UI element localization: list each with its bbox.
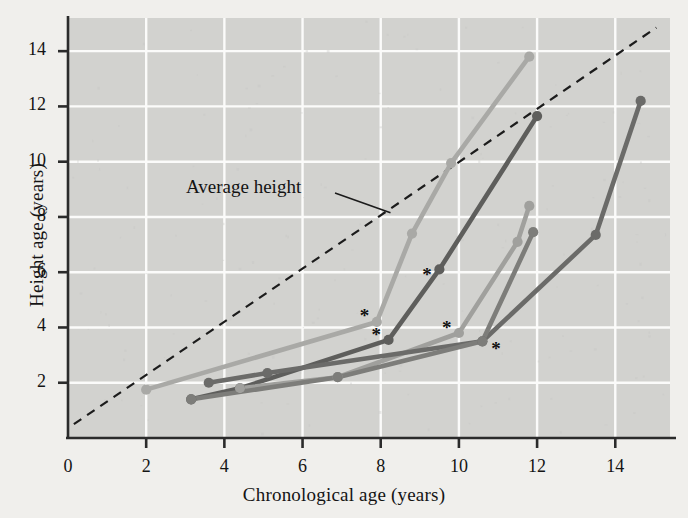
texture-speck: [403, 36, 405, 38]
texture-speck: [202, 204, 204, 205]
texture-speck: [72, 177, 74, 179]
texture-speck: [350, 383, 352, 385]
texture-speck: [245, 134, 246, 137]
texture-speck: [440, 88, 442, 91]
texture-speck: [643, 376, 645, 378]
texture-speck: [143, 43, 145, 46]
data-point-patient-5[interactable]: [333, 372, 343, 382]
texture-speck: [261, 433, 264, 436]
data-point-patient-2[interactable]: [532, 111, 542, 121]
texture-speck: [124, 350, 127, 352]
data-point-patient-1[interactable]: [524, 52, 534, 62]
y-tick-label: 10: [12, 150, 46, 171]
texture-speck: [278, 277, 281, 279]
data-point-patient-3[interactable]: [454, 328, 464, 338]
texture-speck: [570, 350, 573, 351]
texture-speck: [316, 261, 318, 263]
texture-speck: [248, 353, 250, 355]
texture-speck: [378, 93, 380, 94]
texture-speck: [335, 75, 337, 77]
texture-speck: [87, 329, 89, 330]
texture-speck: [501, 247, 504, 248]
texture-speck: [239, 268, 242, 270]
texture-speck: [635, 377, 637, 379]
texture-speck: [621, 72, 622, 75]
texture-speck: [546, 208, 548, 210]
texture-speck: [286, 403, 289, 404]
texture-speck: [237, 168, 239, 171]
texture-speck: [97, 87, 99, 90]
data-point-patient-3[interactable]: [235, 383, 245, 393]
texture-speck: [250, 128, 253, 131]
average-height-annotation-label: Average height: [186, 176, 301, 198]
texture-speck: [271, 75, 274, 77]
texture-speck: [613, 111, 615, 113]
data-point-patient-4[interactable]: [591, 230, 601, 240]
texture-speck: [407, 34, 408, 36]
texture-speck: [603, 122, 605, 123]
texture-speck: [480, 153, 481, 155]
data-point-patient-5[interactable]: [528, 227, 538, 237]
texture-speck: [190, 30, 192, 31]
texture-speck: [327, 50, 330, 53]
data-point-patient-5[interactable]: [477, 336, 487, 346]
data-point-patient-4[interactable]: [636, 96, 646, 106]
data-point-patient-2[interactable]: [383, 335, 393, 345]
texture-speck: [334, 279, 336, 281]
texture-speck: [245, 88, 248, 90]
texture-speck: [478, 160, 480, 163]
texture-speck: [317, 317, 319, 319]
texture-speck: [549, 126, 551, 127]
texture-speck: [562, 335, 564, 337]
texture-speck: [99, 168, 100, 171]
data-point-patient-4[interactable]: [262, 368, 272, 378]
texture-speck: [171, 294, 172, 296]
texture-speck: [502, 352, 503, 355]
texture-speck: [258, 85, 261, 88]
texture-speck: [482, 158, 483, 159]
data-point-patient-4[interactable]: [204, 378, 214, 388]
data-point-patient-3[interactable]: [524, 201, 534, 211]
texture-speck: [351, 250, 354, 251]
texture-speck: [508, 398, 510, 400]
texture-speck: [479, 330, 480, 332]
texture-speck: [321, 183, 322, 185]
x-tick-label: 10: [442, 456, 476, 477]
texture-speck: [555, 84, 556, 85]
texture-speck: [364, 338, 366, 341]
data-point-patient-2[interactable]: [434, 264, 444, 274]
texture-speck: [365, 21, 367, 23]
texture-speck: [663, 394, 665, 396]
texture-speck: [387, 34, 389, 36]
data-point-patient-5[interactable]: [186, 394, 196, 404]
y-tick-label: 4: [12, 315, 46, 336]
data-point-patient-1[interactable]: [446, 158, 456, 168]
y-tick-label: 12: [12, 94, 46, 115]
data-point-patient-1[interactable]: [141, 385, 151, 395]
y-tick-label: 14: [12, 39, 46, 60]
data-point-patient-1[interactable]: [407, 228, 417, 238]
texture-speck: [92, 140, 93, 142]
texture-speck: [566, 115, 568, 116]
texture-speck: [618, 196, 621, 198]
texture-speck: [563, 254, 564, 256]
texture-speck: [637, 123, 640, 124]
texture-speck: [471, 117, 474, 120]
texture-speck: [324, 187, 327, 189]
texture-speck: [193, 166, 195, 167]
texture-speck: [312, 322, 315, 324]
texture-speck: [134, 226, 136, 229]
data-point-patient-3[interactable]: [512, 237, 522, 247]
x-tick-label: 0: [51, 456, 85, 477]
texture-speck: [357, 313, 358, 314]
y-tick-label: 2: [12, 371, 46, 392]
x-axis-title: Chronological age (years): [0, 484, 688, 506]
texture-speck: [462, 239, 464, 241]
texture-speck: [638, 320, 640, 322]
texture-speck: [505, 240, 506, 243]
texture-speck: [494, 402, 497, 403]
texture-speck: [623, 181, 624, 183]
texture-speck: [481, 406, 483, 407]
texture-speck: [252, 261, 254, 264]
texture-speck: [648, 335, 650, 337]
